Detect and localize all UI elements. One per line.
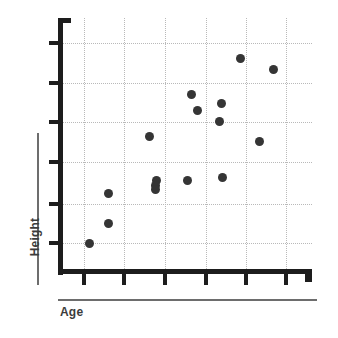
data-point bbox=[215, 117, 224, 126]
data-point bbox=[187, 90, 196, 99]
y-axis-tick bbox=[49, 202, 62, 206]
y-axis-line bbox=[58, 18, 63, 275]
x-axis-tick bbox=[82, 272, 86, 285]
y-axis-tick bbox=[49, 81, 62, 85]
gridline-vertical bbox=[246, 18, 247, 273]
y-axis-title: Height bbox=[28, 197, 42, 277]
x-axis-title-rule bbox=[58, 299, 317, 301]
data-point bbox=[85, 239, 94, 248]
data-point bbox=[217, 99, 226, 108]
gridline-vertical bbox=[124, 18, 125, 273]
x-axis-end-cap bbox=[305, 269, 312, 282]
x-axis-title: Age bbox=[60, 305, 83, 319]
gridline-vertical bbox=[206, 18, 207, 273]
y-axis-tick bbox=[49, 160, 62, 164]
x-axis-tick bbox=[244, 272, 248, 285]
data-point bbox=[145, 132, 154, 141]
data-point bbox=[104, 189, 113, 198]
gridline-vertical bbox=[165, 18, 166, 273]
x-axis-tick bbox=[204, 272, 208, 285]
y-axis-tick bbox=[49, 41, 62, 45]
gridline-horizontal bbox=[58, 204, 312, 205]
data-point bbox=[269, 65, 278, 74]
y-axis-tick bbox=[49, 120, 62, 124]
x-axis-tick bbox=[163, 272, 167, 285]
y-axis-top-cap bbox=[58, 18, 71, 23]
x-axis-line bbox=[58, 269, 312, 274]
data-point bbox=[193, 106, 202, 115]
data-point bbox=[151, 185, 160, 194]
data-point bbox=[255, 137, 264, 146]
gridline-horizontal bbox=[58, 162, 312, 163]
y-axis-tick bbox=[49, 241, 62, 245]
gridline-vertical bbox=[84, 18, 85, 273]
plot-area bbox=[58, 18, 312, 273]
scatter-plot-figure: Age Height bbox=[0, 0, 338, 338]
gridline-horizontal bbox=[58, 43, 312, 44]
data-point bbox=[236, 54, 245, 63]
x-axis-tick bbox=[122, 272, 126, 285]
gridline-horizontal bbox=[58, 243, 312, 244]
x-axis-tick bbox=[284, 272, 288, 285]
data-point bbox=[104, 219, 113, 228]
gridline-vertical bbox=[286, 18, 287, 273]
data-point bbox=[183, 176, 192, 185]
gridline-horizontal bbox=[58, 83, 312, 84]
data-point bbox=[218, 173, 227, 182]
gridline-horizontal bbox=[58, 122, 312, 123]
